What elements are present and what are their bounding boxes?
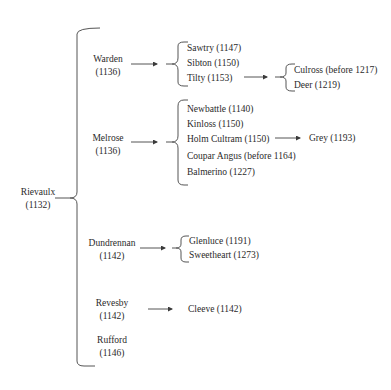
node-rufford: Rufford (1146) xyxy=(90,334,134,360)
node-holm-cultram: Holm Cultram (1150) xyxy=(187,133,270,146)
node-sibton: Sibton (1150) xyxy=(187,57,239,70)
node-name: Revesby xyxy=(90,297,134,310)
node-cleeve: Cleeve (1142) xyxy=(188,303,242,316)
node-rievaulx: Rievaulx (1132) xyxy=(14,186,62,212)
node-kinloss: Kinloss (1150) xyxy=(187,118,243,131)
node-newbattle: Newbattle (1140) xyxy=(187,103,253,116)
node-name: Melrose xyxy=(88,132,128,145)
node-name: Dundrennan xyxy=(84,237,140,250)
node-revesby: Revesby (1142) xyxy=(90,297,134,323)
node-year: (1142) xyxy=(84,250,140,263)
node-coupar-angus: Coupar Angus (before 1164) xyxy=(187,150,296,163)
node-warden: Warden (1136) xyxy=(88,53,128,79)
node-name: Rievaulx xyxy=(14,186,62,199)
node-dundrennan: Dundrennan (1142) xyxy=(84,237,140,263)
node-year: (1142) xyxy=(90,310,134,323)
node-sweetheart: Sweetheart (1273) xyxy=(189,249,259,262)
node-name: Warden xyxy=(88,53,128,66)
node-year: (1132) xyxy=(14,199,62,212)
node-glenluce: Glenluce (1191) xyxy=(189,235,251,248)
node-deer: Deer (1219) xyxy=(294,79,340,92)
node-tilty: Tilty (1153) xyxy=(187,72,233,85)
node-sawtry: Sawtry (1147) xyxy=(187,42,241,55)
node-year: (1136) xyxy=(88,66,128,79)
node-year: (1146) xyxy=(90,347,134,360)
node-year: (1136) xyxy=(88,145,128,158)
node-name: Rufford xyxy=(90,334,134,347)
node-balmerino: Balmerino (1227) xyxy=(187,166,255,179)
node-melrose: Melrose (1136) xyxy=(88,132,128,158)
node-grey: Grey (1193) xyxy=(309,132,355,145)
node-culross: Culross (before 1217) xyxy=(294,64,377,77)
